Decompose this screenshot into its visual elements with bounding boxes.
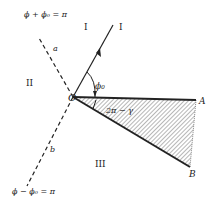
equation-upper: ϕ + ϕ₀ = π xyxy=(24,10,68,19)
dashed-b-label: b xyxy=(50,145,55,154)
incident-ray xyxy=(73,25,113,97)
arrow-icon xyxy=(93,91,97,97)
dashed-a-label: a xyxy=(53,44,58,53)
region-I-label: I xyxy=(84,22,88,32)
incident-ray-label: I xyxy=(119,22,123,32)
point-b-label: B xyxy=(188,169,196,179)
angle-phi0-label: ϕ₀ xyxy=(95,81,105,91)
point-a-label: A xyxy=(198,96,206,106)
arrow-icon xyxy=(96,48,101,57)
wedge-diagram: O A B I I II III a b ϕ + ϕ₀ = π ϕ − ϕ₀ =… xyxy=(0,0,219,207)
region-III-label: III xyxy=(95,159,106,169)
equation-lower: ϕ − ϕ₀ = π xyxy=(12,187,56,196)
origin-label: O xyxy=(68,92,76,103)
dashed-boundary-b xyxy=(27,97,73,186)
region-II-label: II xyxy=(26,78,34,88)
angle-wedge-label: 2π − γ xyxy=(105,106,133,115)
